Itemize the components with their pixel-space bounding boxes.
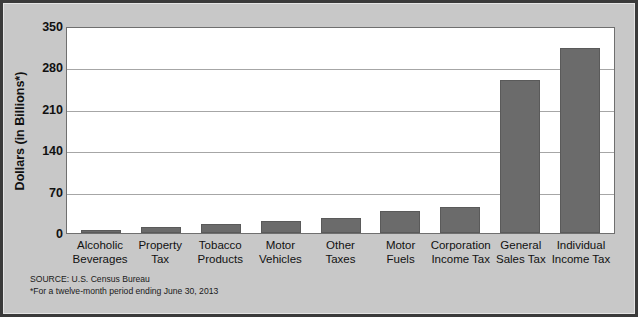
- x-tick-label-line: Other: [310, 239, 370, 253]
- x-tick-label-line: Tobacco: [190, 239, 250, 253]
- y-tick-label: 280: [42, 61, 63, 75]
- x-tick-label-line: Taxes: [310, 253, 370, 267]
- bar-slot: [191, 28, 251, 233]
- bar-slot: [370, 28, 430, 233]
- bar[interactable]: [261, 221, 301, 233]
- bar[interactable]: [440, 207, 480, 233]
- bar[interactable]: [141, 227, 181, 233]
- y-axis-title: Dollars (in Billions*): [11, 27, 29, 234]
- bar-slot: [490, 28, 550, 233]
- x-tick-label-line: General: [491, 239, 551, 253]
- x-tick-label: MotorFuels: [371, 237, 431, 271]
- x-tick-label-line: Motor: [250, 239, 310, 253]
- x-tick-label-line: Alcoholic: [70, 239, 130, 253]
- x-axis-tick-labels: AlcoholicBeveragesPropertyTaxTobaccoProd…: [66, 237, 615, 271]
- y-axis-tick-labels: 350280210140700: [29, 27, 63, 234]
- plot-area: [66, 27, 615, 234]
- bars-container: [67, 28, 614, 233]
- y-tick-label: 0: [56, 227, 63, 241]
- x-tick-label-line: Vehicles: [250, 253, 310, 267]
- x-tick-label-line: Fuels: [371, 253, 431, 267]
- bar-slot: [311, 28, 371, 233]
- x-tick-label: AlcoholicBeverages: [70, 237, 130, 271]
- x-tick-label-line: Property: [130, 239, 190, 253]
- x-tick-label-line: Products: [190, 253, 250, 267]
- x-tick-label-line: Corporation: [431, 239, 491, 253]
- bar[interactable]: [201, 224, 241, 233]
- bar[interactable]: [81, 230, 121, 233]
- bar-slot: [430, 28, 490, 233]
- x-tick-label-line: Beverages: [70, 253, 130, 267]
- bar[interactable]: [321, 218, 361, 233]
- x-tick-label: MotorVehicles: [250, 237, 310, 271]
- chart-figure: Dollars (in Billions*) 350280210140700 A…: [0, 0, 638, 317]
- x-tick-label: IndividualIncome Tax: [551, 237, 611, 271]
- x-tick-label-line: Income Tax: [551, 253, 611, 267]
- x-tick-label-line: Individual: [551, 239, 611, 253]
- bar-slot: [550, 28, 610, 233]
- bar-slot: [251, 28, 311, 233]
- x-tick-label: TobaccoProducts: [190, 237, 250, 271]
- y-tick-label: 210: [42, 103, 63, 117]
- x-tick-label-line: Income Tax: [431, 253, 491, 267]
- x-tick-label-line: Tax: [130, 253, 190, 267]
- x-tick-label-line: Sales Tax: [491, 253, 551, 267]
- y-tick-label: 140: [42, 144, 63, 158]
- y-tick-label: 70: [49, 186, 63, 200]
- footnote-note: *For a twelve-month period ending June 3…: [30, 286, 218, 298]
- x-tick-label: OtherTaxes: [310, 237, 370, 271]
- footnote: SOURCE: U.S. Census Bureau *For a twelve…: [30, 274, 218, 297]
- footnote-source: SOURCE: U.S. Census Bureau: [30, 274, 218, 286]
- y-tick-label: 350: [42, 20, 63, 34]
- x-tick-label-line: Motor: [371, 239, 431, 253]
- y-axis-title-text: Dollars (in Billions*): [13, 71, 27, 190]
- bar[interactable]: [380, 211, 420, 233]
- bar[interactable]: [560, 48, 600, 233]
- bar[interactable]: [500, 80, 540, 233]
- bar-slot: [71, 28, 131, 233]
- x-tick-label: GeneralSales Tax: [491, 237, 551, 271]
- x-tick-label: CorporationIncome Tax: [431, 237, 491, 271]
- x-tick-label: PropertyTax: [130, 237, 190, 271]
- bar-slot: [131, 28, 191, 233]
